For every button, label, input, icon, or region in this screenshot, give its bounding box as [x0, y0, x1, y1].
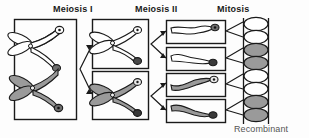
fork-meiosis-2-to-mitosis-3 — [226, 74, 243, 89]
fork-meiosis-2-to-mitosis-4 — [226, 100, 243, 115]
recombinant-label: Recombinant — [234, 124, 288, 134]
meiosis-1-cell-1 — [88, 20, 149, 69]
meiosis-mitosis-diagram — [0, 0, 309, 138]
meiosis-2-cell-1 — [167, 21, 226, 44]
meiosis-2-cell-3 — [167, 74, 226, 97]
meiosis-2-cell-4 — [167, 100, 226, 123]
mitosis-product-6 — [244, 82, 268, 95]
fork-meiosis-2-to-mitosis-1 — [226, 22, 243, 37]
mitosis-product-5 — [244, 69, 268, 82]
mitosis-product-7 — [244, 95, 268, 108]
mitosis-product-column — [244, 17, 269, 124]
figure-canvas: Meiosis I Meiosis II Mitosis — [0, 0, 309, 138]
fork-meiosis-2-to-mitosis-2 — [226, 48, 243, 63]
meiosis-2-cell-2 — [167, 48, 226, 71]
mitosis-product-3 — [244, 43, 268, 56]
mitosis-product-8 — [244, 108, 268, 121]
fork-meiosis-1-to-2-upper — [151, 31, 166, 58]
meiosis-1-cell-2 — [88, 72, 149, 120]
fork-meiosis-1-to-2-lower — [151, 83, 166, 110]
mitosis-product-1 — [244, 17, 268, 30]
parent-cell-box — [15, 20, 77, 120]
mitosis-product-4 — [244, 56, 268, 69]
mitosis-product-2 — [244, 30, 268, 43]
